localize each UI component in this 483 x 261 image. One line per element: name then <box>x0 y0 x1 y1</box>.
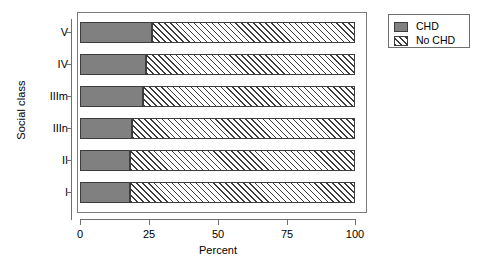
y-axis-tick <box>66 32 72 33</box>
legend-label-chd: CHD <box>416 21 439 32</box>
y-tick-label-i: I <box>28 187 68 198</box>
bar-segment-chd <box>80 182 130 203</box>
y-axis-tick <box>66 160 72 161</box>
x-axis-title: Percent <box>80 244 356 256</box>
x-axis-tick <box>80 219 81 225</box>
y-axis-line <box>71 19 72 220</box>
bar-row <box>80 22 355 43</box>
y-tick-label-iiim: IIIm <box>28 91 68 102</box>
y-tick-label-iv: IV <box>28 59 68 70</box>
y-tick-label-group: V IV IIIm IIIn II I <box>24 0 68 261</box>
bar-segment-chd <box>80 86 143 107</box>
legend-swatch-chd-icon <box>394 22 408 32</box>
y-axis-tick <box>66 192 72 193</box>
y-tick-label-ii: II <box>28 155 68 166</box>
bar-segment-no-chd <box>152 22 356 43</box>
bar-row <box>80 182 355 203</box>
bar-segment-no-chd <box>146 54 355 75</box>
legend-label-no-chd: No CHD <box>416 35 455 46</box>
stacked-bar-chart: Social class V IV IIIm IIIn II I <box>0 0 483 261</box>
y-axis-tick <box>66 64 72 65</box>
bar-segment-chd <box>80 118 132 139</box>
bar-segment-no-chd <box>130 182 356 203</box>
x-tick-label-25: 25 <box>129 228 169 240</box>
x-tick-label-75: 75 <box>267 228 307 240</box>
legend-swatch-no-chd-icon <box>394 36 408 46</box>
bar-segment-no-chd <box>132 118 355 139</box>
x-tick-label-100: 100 <box>335 228 375 240</box>
bar-segment-chd <box>80 22 152 43</box>
bar-segment-no-chd <box>143 86 355 107</box>
y-tick-label-iiin: IIIn <box>28 123 68 134</box>
bar-segment-chd <box>80 54 146 75</box>
x-axis-tick <box>355 219 356 225</box>
bar-segment-chd <box>80 150 130 171</box>
legend-item-no-chd: No CHD <box>394 34 455 47</box>
y-tick-label-v: V <box>28 27 68 38</box>
x-tick-label-50: 50 <box>198 228 238 240</box>
bar-row <box>80 86 355 107</box>
y-axis-tick <box>66 128 72 129</box>
bar-row <box>80 118 355 139</box>
bar-segment-no-chd <box>130 150 356 171</box>
legend-item-chd: CHD <box>394 20 439 33</box>
x-axis-tick <box>287 219 288 225</box>
bar-row <box>80 150 355 171</box>
x-axis-tick <box>218 219 219 225</box>
legend: CHD No CHD <box>388 14 470 48</box>
x-tick-label-0: 0 <box>60 228 100 240</box>
x-axis-tick <box>149 219 150 225</box>
bar-row <box>80 54 355 75</box>
y-axis-tick <box>66 96 72 97</box>
